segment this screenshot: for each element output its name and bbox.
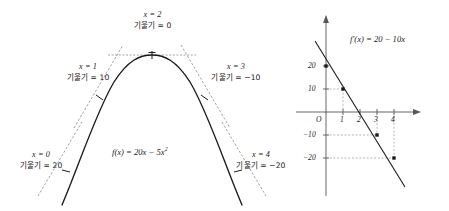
annotation-x1-x: x = 1 [48,62,128,73]
x-tick-label-2: 2 [357,115,361,124]
figure-root: x = 2 기울기 = 0 x = 1 기울기 = 10 x = 3 기울기 =… [0,0,449,211]
annotation-x4: x = 4 기울기 = −20 [222,150,300,171]
data-point-3-minus10 [375,133,378,136]
x-tick-label-1: 1 [340,115,344,124]
parabola-panel: x = 2 기울기 = 0 x = 1 기울기 = 10 x = 3 기울기 =… [0,0,290,211]
annotation-x0-slope: 기울기 = 20 [2,161,80,172]
function-label-f: f(x) = 20x − 5x2 [112,146,168,157]
origin-label: O [316,115,321,124]
data-point-1-10 [341,87,344,90]
function-label-f-prime: f′(x) = 20 − 10x [350,34,405,44]
derivative-panel: f′(x) = 20 − 10x O 1 2 3 4 20 10 −10 −20 [290,0,449,211]
annotation-x2: x = 2 기울기 = 0 [110,10,195,31]
derivative-line [315,41,405,187]
annotation-x4-x: x = 4 [222,150,300,161]
annotation-x3-x: x = 3 [196,62,276,73]
tangency-mark-x1 [96,95,103,100]
x-tick-label-3: 3 [374,115,378,124]
data-point-4-minus20 [392,156,395,159]
x-tick-label-4: 4 [391,115,395,124]
y-tick-label-10: 10 [308,84,316,93]
annotation-x1: x = 1 기울기 = 10 [48,62,128,83]
y-tick-label-20: 20 [308,61,316,70]
annotation-x4-slope: 기울기 = −20 [222,161,300,172]
function-label-f-exponent: 2 [165,146,168,152]
annotation-x3-slope: 기울기 = −10 [196,73,276,84]
x-axis-arrow [413,109,421,115]
derivative-graphic [290,0,449,211]
annotation-x1-slope: 기울기 = 10 [48,73,128,84]
annotation-x0-x: x = 0 [2,150,80,161]
tangency-mark-x3 [201,95,208,100]
y-axis-arrow [323,15,329,23]
annotation-x2-x: x = 2 [110,10,195,21]
annotation-x0: x = 0 기울기 = 20 [2,150,80,171]
annotation-x2-slope: 기울기 = 0 [110,21,195,32]
y-tick-label-minus-20: −20 [303,153,316,162]
data-point-y-intercept [324,64,327,67]
annotation-x3: x = 3 기울기 = −10 [196,62,276,83]
parabola-graphic [0,0,290,211]
y-tick-label-minus-10: −10 [303,130,316,139]
function-label-f-text: f(x) = 20x − 5x [112,147,165,157]
